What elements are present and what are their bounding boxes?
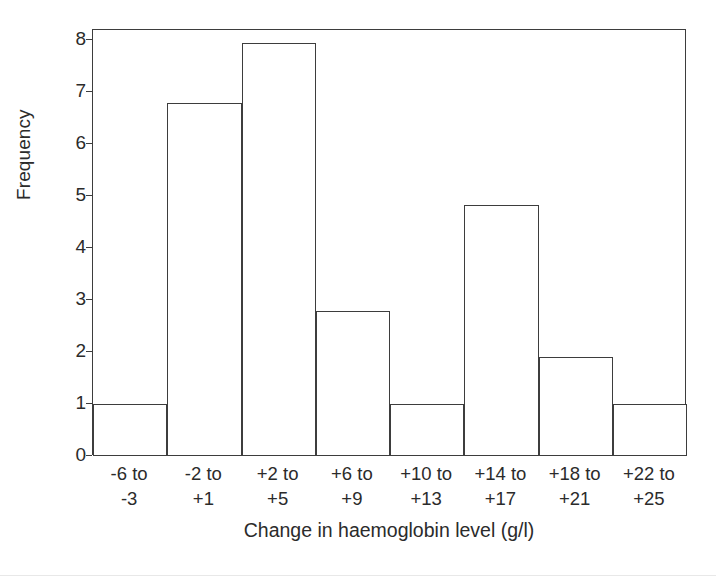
x-tick-label-line2: +5 [241,486,315,511]
x-tick-label: +6 to+9 [315,461,389,521]
x-tick-label: +10 to+13 [389,461,463,521]
histogram-bar [465,206,538,456]
x-tick-label-line1: -6 to [111,463,148,484]
x-tick-label-line1: +2 to [257,463,299,484]
histogram-bar [316,311,389,455]
x-axis-title: Change in haemoglobin level (g/l) [92,519,686,542]
y-tick-mark [86,195,92,196]
y-tick-label: 4 [60,237,86,256]
x-tick-label-line2: +25 [612,486,686,511]
y-tick-label: 7 [60,81,86,100]
x-tick-label-line2: +13 [389,486,463,511]
y-tick-mark [86,455,92,456]
y-tick-mark [86,143,92,144]
x-tick-label-line1: +10 to [400,463,452,484]
x-tick-label-line1: +14 to [474,463,526,484]
histogram-bar [168,103,241,455]
y-tick-mark [86,403,92,404]
x-tick-label-line2: +1 [166,486,240,511]
x-tick-label: +2 to+5 [241,461,315,521]
y-tick-mark [86,351,92,352]
x-tick-label-line1: +18 to [549,463,601,484]
y-axis-title: Frequency [13,40,43,200]
y-tick-label: 6 [60,133,86,152]
y-tick-label: 3 [60,289,86,308]
y-tick-label: 0 [60,445,86,464]
y-tick-label: 1 [60,393,86,412]
x-tick-label-line1: -2 to [185,463,222,484]
plot-area [92,29,686,455]
y-tick-label: 5 [60,185,86,204]
x-tick-label-line1: +22 to [623,463,675,484]
histogram-bar [391,405,464,456]
y-tick-label: 2 [60,341,86,360]
x-tick-label-line2: -3 [92,486,166,511]
bars-group [93,30,687,456]
scan-artifact-line [0,575,716,576]
y-tick-label: 8 [60,29,86,48]
x-tick-label: -6 to-3 [92,461,166,521]
y-tick-mark [86,299,92,300]
y-axis-ticks: 012345678 [56,0,86,578]
x-axis-ticks: -6 to-3-2 to+1+2 to+5+6 to+9+10 to+13+14… [92,461,686,521]
x-tick-label-line2: +17 [463,486,537,511]
x-tick-label-line2: +9 [315,486,389,511]
x-tick-label-line1: +6 to [331,463,373,484]
x-tick-label: +18 to+21 [538,461,612,521]
y-tick-mark [86,91,92,92]
x-tick-label: +14 to+17 [463,461,537,521]
x-tick-label-line2: +21 [538,486,612,511]
x-tick-label: +22 to+25 [612,461,686,521]
x-tick-label: -2 to+1 [166,461,240,521]
histogram-figure: Frequency 012345678 -6 to-3-2 to+1+2 to+… [0,0,716,578]
y-tick-mark [86,39,92,40]
histogram-bar [613,405,686,456]
histogram-bar [94,405,167,456]
histogram-bar [539,358,612,456]
histogram-bar [242,43,315,455]
y-tick-mark [86,247,92,248]
